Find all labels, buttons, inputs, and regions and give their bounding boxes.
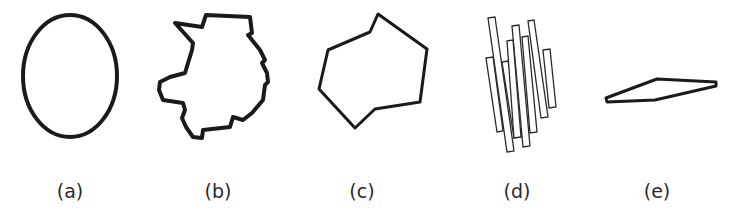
label-c: (c) — [349, 180, 374, 202]
shape-e-parallelogram — [606, 79, 716, 102]
shape-a-ellipse — [23, 15, 117, 137]
label-d: (d) — [504, 180, 531, 202]
shape-d-rectangles — [486, 17, 556, 152]
label-a: (a) — [57, 180, 83, 202]
label-b: (b) — [205, 180, 232, 202]
shape-b-blob — [159, 15, 268, 138]
label-e: (e) — [644, 180, 671, 202]
shape-c-polygon — [319, 14, 427, 128]
